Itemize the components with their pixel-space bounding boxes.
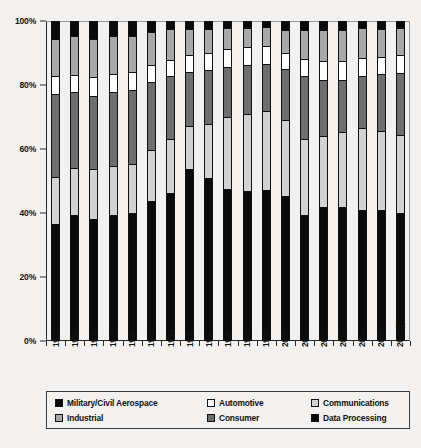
bar-segment (148, 22, 155, 32)
stacked-bar[interactable] (223, 21, 232, 341)
stacked-bar[interactable] (204, 21, 213, 341)
bar-segment (301, 77, 308, 139)
bar-segment (320, 22, 327, 31)
bar-slot (372, 21, 391, 341)
bar-segment (148, 83, 155, 151)
legend-item-industrial: Industrial (55, 413, 207, 423)
stacked-bar[interactable] (166, 21, 175, 341)
bar-segment (167, 22, 174, 30)
stacked-bar[interactable] (128, 21, 137, 341)
legend-label-communications: Communications (323, 398, 389, 408)
x-axis-tick-label: 1992 (128, 330, 137, 347)
x-axis-label-slot: 1990 (84, 347, 103, 389)
bar-segment (282, 31, 289, 55)
x-axis-tick-label: 1991 (109, 330, 118, 347)
y-axis-tick-label: 0% (24, 336, 36, 346)
legend-label-automotive: Automotive (219, 398, 264, 408)
bar-slot (391, 21, 410, 341)
x-axis-label-slot: 1993 (142, 347, 161, 389)
bar-segment (205, 179, 212, 340)
bar-segment (186, 56, 193, 73)
bar-segment (244, 29, 251, 48)
stacked-bar[interactable] (51, 21, 60, 341)
stacked-bar[interactable] (358, 21, 367, 341)
bar-segment (359, 22, 366, 29)
bar-slot (103, 21, 122, 341)
stacked-bar[interactable] (89, 21, 98, 341)
bar-segment (263, 65, 270, 112)
bar-segment (263, 28, 270, 46)
y-axis-tick-label: 60% (20, 144, 36, 154)
bar-segment (282, 54, 289, 70)
bar-segment (90, 97, 97, 170)
stacked-bar[interactable] (300, 21, 309, 341)
x-axis-tick-label: 2006(f) (396, 322, 405, 347)
stacked-bar[interactable] (281, 21, 290, 341)
stacked-bar[interactable] (109, 21, 118, 341)
bar-slot (333, 21, 352, 341)
legend-row-top: Military/Civil Aerospace Automotive Comm… (55, 395, 403, 410)
bar-segment (301, 22, 308, 31)
legend-item-data-processing: Data Processing (311, 413, 386, 423)
stacked-bar[interactable] (147, 21, 156, 341)
bar-segment (244, 22, 251, 29)
legend-label-data-processing: Data Processing (323, 413, 386, 423)
x-axis-label-slot: 2001 (295, 347, 314, 389)
x-axis-tick-label: 1998 (243, 330, 252, 347)
stacked-bar[interactable] (70, 21, 79, 341)
bar-segment (378, 30, 385, 58)
x-axis-label-slot: 2002 (314, 347, 333, 389)
bar-slot (295, 21, 314, 341)
bar-segment (110, 216, 117, 340)
stacked-bar[interactable] (319, 21, 328, 341)
legend-swatch-data-processing (311, 414, 319, 422)
bar-segment (129, 91, 136, 166)
chart-legend: Military/Civil Aerospace Automotive Comm… (46, 391, 410, 429)
x-axis-tick-mark (123, 341, 124, 346)
bar-slot (142, 21, 161, 341)
stacked-bar[interactable] (243, 21, 252, 341)
bar-segment (282, 70, 289, 121)
bar-segment (52, 95, 59, 177)
x-axis-tick-mark (238, 341, 239, 346)
bar-segment (224, 50, 231, 68)
y-axis: 100%80%60%40%20%0% (0, 0, 46, 341)
bar-segment (359, 211, 366, 340)
bar-slot (65, 21, 84, 341)
bar-segment (71, 76, 78, 93)
legend-swatch-consumer (207, 414, 215, 422)
bar-slot (46, 21, 65, 341)
stacked-bar[interactable] (185, 21, 194, 341)
x-axis-tick-mark (84, 341, 85, 346)
bar-segment (224, 29, 231, 50)
bar-segment (110, 37, 117, 75)
bar-segment (71, 37, 78, 77)
bar-segment (301, 60, 308, 77)
y-axis-tick-label: 100% (15, 16, 36, 26)
bar-segment (244, 192, 251, 341)
bar-segment (52, 225, 59, 340)
bar-segment (71, 22, 78, 37)
stacked-bar[interactable] (262, 21, 271, 341)
bar-segment (359, 77, 366, 129)
bar-segment (148, 33, 155, 66)
bar-segment (339, 31, 346, 63)
bar-segment (186, 22, 193, 30)
bar-segment (205, 125, 212, 178)
bar-segment (186, 73, 193, 127)
bar-segment (167, 61, 174, 77)
x-axis-tick-mark (391, 341, 392, 346)
bar-segment (301, 31, 308, 61)
legend-item-automotive: Automotive (207, 398, 311, 408)
bar-segment (397, 29, 404, 56)
bar-segment (397, 74, 404, 136)
bar-segment (244, 48, 251, 65)
stacked-bar[interactable] (396, 21, 405, 341)
bar-segment (320, 81, 327, 137)
stacked-bar[interactable] (338, 21, 347, 341)
bar-segment (52, 40, 59, 78)
x-axis-tick-mark (276, 341, 277, 346)
bar-segment (167, 194, 174, 340)
bar-segment (224, 68, 231, 119)
stacked-bar[interactable] (377, 21, 386, 341)
